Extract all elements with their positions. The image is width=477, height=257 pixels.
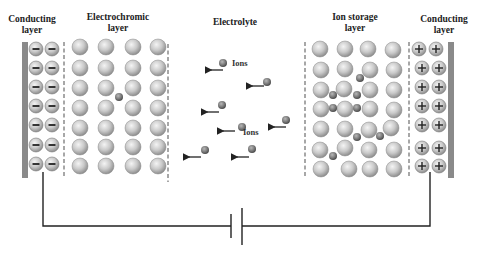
negative-charge <box>45 118 59 132</box>
electrochromic-particle <box>72 100 88 116</box>
electrochromic-particle <box>150 39 166 55</box>
ion-arrows <box>189 70 286 157</box>
positive-charge <box>432 99 446 113</box>
positive-charge <box>432 61 446 75</box>
ion-storage-particle <box>383 120 399 136</box>
ion-storage-particle <box>362 101 378 117</box>
ion-storage-particle <box>386 102 402 118</box>
positive-charge <box>415 159 429 173</box>
positive-charge <box>412 42 426 56</box>
ion <box>329 91 337 99</box>
ion-storage-particle <box>313 101 329 117</box>
positive-charge <box>429 42 443 56</box>
ion-storage-particle <box>337 61 353 77</box>
negative-charge <box>29 157 43 171</box>
circuit <box>43 172 430 245</box>
positive-charge <box>415 80 429 94</box>
ion <box>356 74 364 82</box>
label-ions-2: Ions <box>243 127 259 137</box>
ion-storage-particle <box>386 82 402 98</box>
electrochromic-particle <box>98 158 114 174</box>
label-electrochromic: Electrochromic layer <box>78 12 158 34</box>
electrochromic-particle <box>98 80 114 96</box>
ion <box>353 133 361 141</box>
negative-charge <box>29 118 43 132</box>
negative-charge <box>45 99 59 113</box>
negative-charge <box>29 42 43 56</box>
positive-charge <box>415 99 429 113</box>
positive-charge <box>415 118 429 132</box>
negative-charge <box>29 138 43 152</box>
ion <box>376 132 384 140</box>
electrochromic-particle <box>125 139 141 155</box>
electrochromic-particle <box>150 139 166 155</box>
electrochromic-particle <box>72 120 88 136</box>
ion-storage-particle <box>313 62 329 78</box>
ion <box>248 145 256 153</box>
ion-storage-particle <box>362 161 378 177</box>
label-conducting-left: Conducting layer <box>2 14 62 36</box>
electrochromic-particle <box>72 39 88 55</box>
ion-storage-particle <box>361 122 377 138</box>
negative-charge <box>29 80 43 94</box>
ion-storage-particle <box>337 121 353 137</box>
ion-storage-particle <box>386 161 402 177</box>
electrochromic-particle <box>125 39 141 55</box>
electrochromic-particle <box>125 100 141 116</box>
positive-charges <box>412 42 446 173</box>
ion <box>353 104 361 112</box>
ion <box>201 146 209 154</box>
ion <box>282 116 290 124</box>
negative-charges <box>29 42 59 171</box>
negative-charge <box>45 138 59 152</box>
electrochromic-particle <box>98 60 114 76</box>
label-ions-1: Ions <box>232 58 248 68</box>
negative-charge <box>45 42 59 56</box>
ion <box>219 59 227 67</box>
electrochromic-particle <box>150 60 166 76</box>
electrochromic-particle <box>125 120 141 136</box>
label-ion-storage: Ion storage layer <box>325 12 385 34</box>
ion-storage-particle <box>336 81 352 97</box>
positive-charge <box>432 80 446 94</box>
ion-storage-particle <box>362 82 378 98</box>
electrochromic-particle <box>125 60 141 76</box>
ion-storage-particle <box>312 142 328 158</box>
ion-storage-particle <box>337 101 353 117</box>
electrochromic-particle <box>72 60 88 76</box>
electrochromic-particle <box>125 158 141 174</box>
ion <box>329 152 337 160</box>
positive-charge <box>432 118 446 132</box>
ion <box>263 78 271 86</box>
diagram: Conducting layer Electrochromic layer El… <box>0 0 477 257</box>
electrochromic-particle <box>125 80 141 96</box>
ion-storage-particle <box>341 161 357 177</box>
positive-charge <box>415 61 429 75</box>
electrochromic-balls <box>72 39 166 174</box>
electrochromic-particle <box>150 158 166 174</box>
ion-storage-particle <box>360 41 376 57</box>
positive-charge <box>432 159 446 173</box>
ion-storage-particle <box>361 142 377 158</box>
electrochromic-particle <box>150 100 166 116</box>
ion-storage-particle <box>313 121 329 137</box>
electrochromic-particle <box>98 39 114 55</box>
electrochromic-particle <box>72 80 88 96</box>
ion-storage-particle <box>313 161 329 177</box>
negative-charge <box>29 61 43 75</box>
ion-storage-particle <box>312 41 328 57</box>
electrochromic-particle <box>150 120 166 136</box>
ion-storage-particle <box>362 62 378 78</box>
diagram-svg <box>0 0 477 257</box>
electrochromic-particle <box>98 120 114 136</box>
negative-charge <box>45 157 59 171</box>
negative-charge <box>45 80 59 94</box>
label-conducting-right: Conducting layer <box>413 14 475 36</box>
ion <box>218 101 226 109</box>
ion-storage-particle <box>386 62 402 78</box>
positive-charge <box>415 141 429 155</box>
positive-charge <box>432 141 446 155</box>
right-conducting-bar <box>448 42 454 178</box>
electrochromic-particle <box>98 100 114 116</box>
left-wire <box>43 172 231 226</box>
